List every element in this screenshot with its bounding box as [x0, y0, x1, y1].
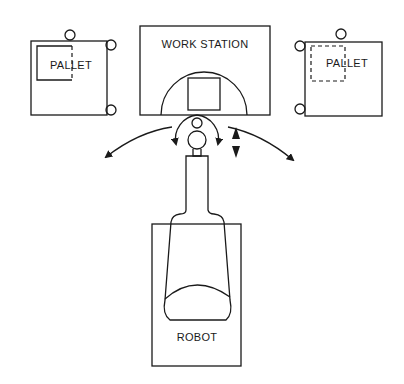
robot-neck [193, 149, 201, 156]
workstation-fixture [188, 78, 220, 110]
left-pallet-station: PALLET [31, 30, 116, 115]
vertical-down-arrow-icon [232, 146, 240, 158]
robot-gripper-ball [188, 131, 206, 149]
robot: ROBOT [152, 118, 241, 366]
right-pallet-label: PALLET [326, 57, 368, 69]
robot-arm [164, 156, 231, 320]
left-station-frame [31, 41, 107, 115]
robot-wrist-joint [192, 118, 202, 128]
right-pallet-station: PALLET [295, 29, 382, 116]
left-pallet-label: PALLET [50, 59, 92, 71]
right-sensor-top-icon [336, 29, 346, 39]
motion-arrows [106, 115, 293, 160]
left-sensor-top-icon [65, 30, 75, 40]
workstation: WORK STATION [140, 26, 270, 115]
right-sensor-lower-icon [295, 104, 305, 114]
right-sensor-upper-icon [295, 41, 305, 51]
workstation-label: WORK STATION [162, 38, 249, 50]
robot-cell-diagram: PALLET WORK STATION PALLET ROBOT [0, 0, 404, 384]
swing-left-arrow-icon [106, 127, 172, 157]
robot-label: ROBOT [177, 331, 218, 343]
swing-right-arrow-icon [228, 127, 293, 160]
right-station-frame [305, 42, 382, 116]
robot-arm-base-curve [165, 285, 230, 299]
